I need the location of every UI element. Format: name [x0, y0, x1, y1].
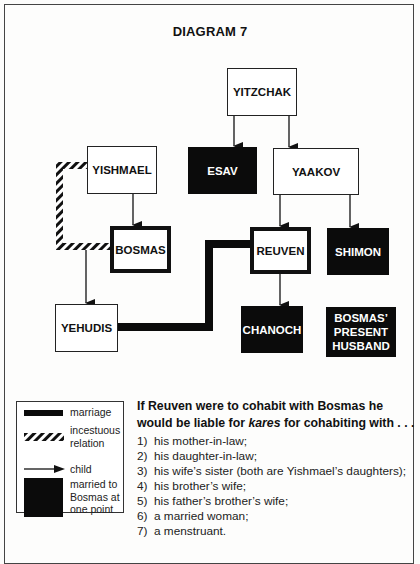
list-item: 4)his brother’s wife; [137, 479, 417, 494]
child-arrows [86, 115, 350, 305]
list-item-number: 1) [137, 434, 154, 449]
person-esav: ESAV [188, 147, 257, 194]
person-yishmael: YISHMAEL [87, 146, 157, 194]
legend-marriage-swatch [24, 410, 63, 416]
husband-label-line1: BOSMAS’ [334, 311, 388, 325]
person-bosmas-label: BOSMAS [115, 243, 165, 257]
list-item: 1)his mother-in-law; [137, 434, 417, 449]
person-chanoch-label: CHANOCH [243, 323, 302, 337]
list-item-number: 6) [137, 509, 154, 524]
list-item: 2)his daughter-in-law; [137, 449, 417, 464]
list-item-text: a menstruant. [154, 524, 226, 538]
person-bosmas: BOSMAS [110, 226, 171, 273]
liability-list: 1)his mother-in-law; 2)his daughter-in-l… [137, 434, 417, 539]
list-item: 7)a menstruant. [137, 524, 417, 539]
person-bosmas-present-husband: BOSMAS’ PRESENT HUSBAND [326, 307, 396, 357]
explanation-text: If Reuven were to cohabit with Bosmas he… [137, 398, 417, 539]
legend-marriage-label: marriage [70, 406, 111, 419]
intro-text-kares: kares [248, 416, 280, 430]
legend-child-label: child [70, 463, 92, 476]
list-item-number: 7) [137, 524, 154, 539]
legend-married-line1: married to [70, 478, 120, 491]
person-yehudis: YEHUDIS [55, 304, 118, 352]
person-shimon: SHIMON [327, 228, 389, 275]
husband-label-line3: HUSBAND [332, 339, 390, 353]
explanation-intro: If Reuven were to cohabit with Bosmas he… [137, 398, 417, 432]
person-shimon-label: SHIMON [335, 245, 381, 259]
person-yaakov-label: YAAKOV [292, 165, 340, 179]
list-item-number: 5) [137, 494, 154, 509]
legend-married-line2: Bosmas at [70, 491, 120, 504]
legend-incestuous-line1: incestuous [70, 424, 120, 437]
list-item-text: his daughter-in-law; [154, 449, 257, 463]
person-yitzchak: YITZCHAK [227, 68, 297, 116]
legend-incestuous-label: incestuous relation [70, 424, 120, 449]
person-chanoch: CHANOCH [241, 306, 303, 353]
legend-married-line3: one point [70, 503, 120, 516]
intro-text-after: for cohabiting with . . . [281, 416, 415, 430]
list-item-number: 2) [137, 449, 154, 464]
person-esav-label: ESAV [207, 164, 237, 178]
list-item: 5)his father’s brother’s wife; [137, 494, 417, 509]
legend: marriage incestuous relation child marri… [16, 401, 124, 513]
list-item-text: a married woman; [154, 509, 248, 523]
list-item-number: 3) [137, 464, 154, 479]
person-yehudis-label: YEHUDIS [61, 321, 112, 335]
list-item-text: his father’s brother’s wife; [154, 494, 288, 508]
legend-incestuous-line2: relation [70, 437, 120, 450]
person-yitzchak-label: YITZCHAK [233, 85, 291, 99]
legend-married-swatch [24, 478, 63, 517]
list-item: 3)his wife’s sister (both are Yishmael’s… [137, 464, 417, 479]
husband-label-line2: PRESENT [334, 325, 388, 339]
legend-incestuous-swatch [24, 433, 64, 441]
person-yaakov: YAAKOV [273, 148, 359, 195]
legend-married-label: married to Bosmas at one point [70, 478, 120, 516]
person-reuven: REUVEN [250, 227, 311, 274]
list-item-text: his wife’s sister (both are Yishmael’s d… [154, 464, 406, 478]
person-yishmael-label: YISHMAEL [92, 163, 151, 177]
person-reuven-label: REUVEN [257, 244, 305, 258]
legend-child-arrow-icon [24, 464, 66, 474]
list-item: 6)a married woman; [137, 509, 417, 524]
list-item-number: 4) [137, 479, 154, 494]
list-item-text: his mother-in-law; [154, 434, 247, 448]
list-item-text: his brother’s wife; [154, 479, 246, 493]
